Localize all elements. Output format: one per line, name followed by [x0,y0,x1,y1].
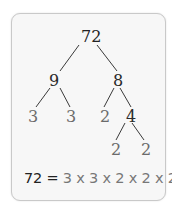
edge-8-2a [104,88,114,107]
node-2b: 2 [111,140,121,159]
node-4: 4 [126,107,136,126]
edge-4-2b [116,123,125,140]
edge-9-3b [60,88,70,107]
node-9: 9 [49,71,59,90]
node-8: 8 [113,71,123,90]
equation-rhs: 3 x 3 x 2 x 2 x 2 [58,170,172,186]
edge-8-4 [120,88,131,107]
node-3a: 3 [28,107,38,126]
node-72: 72 [81,27,101,46]
equation-lhs: 72 = [24,170,58,186]
factorization-equation: 72 = 3 x 3 x 2 x 2 x 2 [24,170,172,186]
node-2a: 2 [100,107,110,126]
node-2c: 2 [141,140,151,159]
edge-72-8 [97,45,117,71]
edge-9-3a [36,88,50,107]
edge-72-9 [60,45,79,71]
node-3b: 3 [66,107,76,126]
